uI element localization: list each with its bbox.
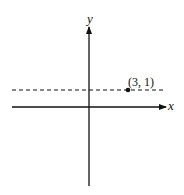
point-label: (3, 1) [128, 76, 154, 88]
y-axis-label: y [87, 12, 93, 25]
coordinate-plane [0, 0, 184, 195]
x-axis-label: x [168, 99, 174, 112]
